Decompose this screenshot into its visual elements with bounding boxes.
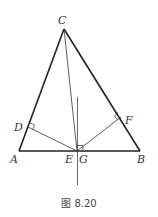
label-d: D [13,121,23,134]
segment-ef [77,117,121,151]
figure-caption: 图 8.20 [61,198,96,209]
segment-de [28,127,77,151]
label-b: B [136,153,145,166]
label-a: A [9,153,18,166]
geometry-diagram: C D A E G F B 图 8.20 [0,0,158,217]
label-g: G [79,153,88,166]
label-e: E [64,153,73,166]
label-c: C [58,14,67,27]
label-f: F [124,114,133,127]
side-ac [19,29,64,151]
